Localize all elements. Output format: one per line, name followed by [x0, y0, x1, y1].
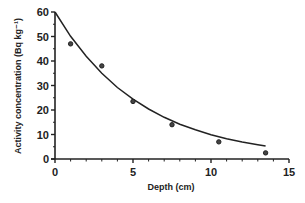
- y-tick-label: 50: [37, 31, 49, 43]
- x-axis-label: Depth (cm): [148, 182, 195, 192]
- data-point: [170, 123, 174, 127]
- x-tick-label: 5: [130, 166, 136, 178]
- data-point: [100, 64, 104, 68]
- x-tick-label: 0: [52, 166, 58, 178]
- y-axis-title: Activity concentration (Bq kg⁻¹): [13, 18, 23, 154]
- data-point: [217, 140, 221, 144]
- y-tick-label: 20: [37, 104, 49, 116]
- y-tick-label: 40: [37, 55, 49, 67]
- fit-curve-line: [55, 12, 266, 146]
- x-tick-label: 15: [283, 166, 295, 178]
- y-axis: 0102030405060: [37, 6, 55, 165]
- y-tick-label: 10: [37, 129, 49, 141]
- x-tick-label: 10: [205, 166, 217, 178]
- fit-curve: [55, 12, 266, 146]
- y-tick-label: 30: [37, 80, 49, 92]
- y-axis-label: Activity concentration (Bq kg⁻¹): [13, 18, 23, 154]
- chart: Activity concentration (Bq kg⁻¹) 0102030…: [0, 0, 305, 203]
- data-point: [68, 42, 72, 46]
- x-axis: 051015: [51, 159, 295, 178]
- y-tick-label: 60: [37, 6, 49, 18]
- data-point: [131, 99, 135, 103]
- y-tick-label: 0: [43, 153, 49, 165]
- data-point: [263, 151, 267, 155]
- data-points: [68, 42, 267, 155]
